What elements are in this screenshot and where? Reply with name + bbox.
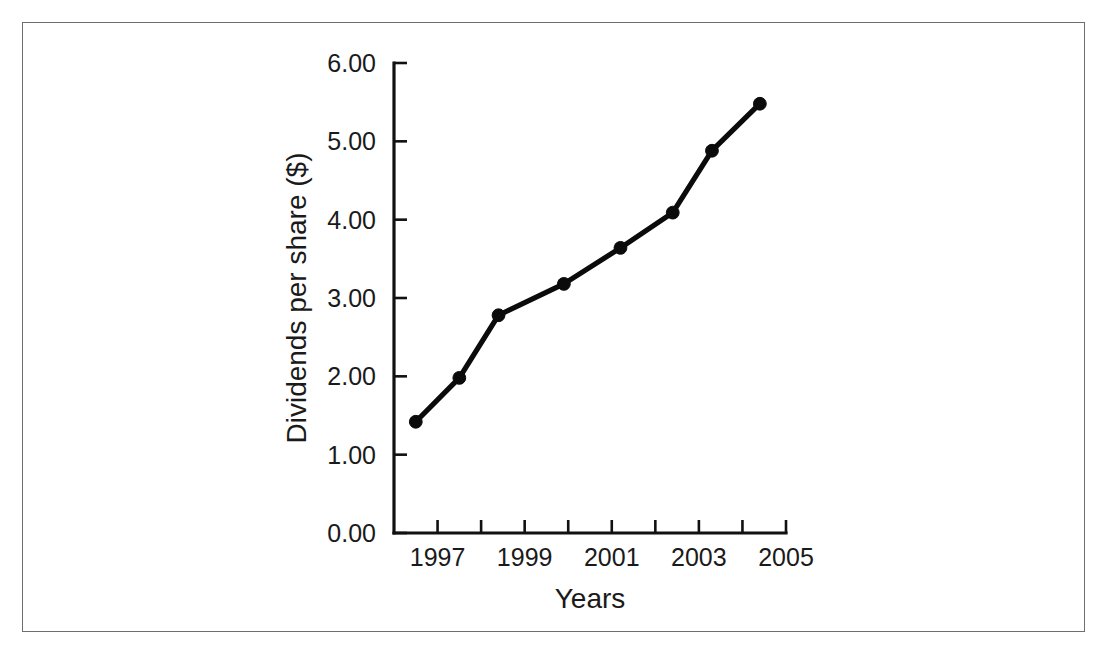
- y-tick-label: 2.00: [327, 362, 376, 390]
- x-axis-title: Years: [555, 583, 626, 614]
- y-axis-tick-labels: 0.001.002.003.004.005.006.00: [327, 49, 376, 547]
- y-tick-label: 6.00: [327, 49, 376, 77]
- chart-canvas: 0.001.002.003.004.005.006.00 19971999200…: [0, 0, 1113, 663]
- y-tick-label: 3.00: [327, 284, 376, 312]
- x-tick-label: 2001: [584, 543, 640, 571]
- line-chart: 0.001.002.003.004.005.006.00 19971999200…: [0, 0, 1113, 663]
- data-point: [492, 309, 505, 322]
- data-point: [666, 206, 679, 219]
- data-point: [453, 372, 466, 385]
- y-axis: 0.001.002.003.004.005.006.00: [327, 49, 407, 547]
- y-tick-label: 0.00: [327, 519, 376, 547]
- x-tick-label: 2003: [671, 543, 727, 571]
- data-point: [614, 241, 627, 254]
- x-axis: 19971999200120032005: [394, 520, 814, 571]
- y-axis-title: Dividends per share ($): [281, 152, 312, 443]
- data-point: [753, 97, 766, 110]
- data-point: [706, 144, 719, 157]
- x-axis-tick-labels: 19971999200120032005: [410, 543, 814, 571]
- y-tick-label: 1.00: [327, 441, 376, 469]
- y-tick-label: 4.00: [327, 206, 376, 234]
- x-tick-label: 2005: [758, 543, 814, 571]
- data-point: [557, 278, 570, 291]
- data-series-dividends: [409, 97, 766, 428]
- data-point: [409, 415, 422, 428]
- figure-page: 0.001.002.003.004.005.006.00 19971999200…: [0, 0, 1113, 663]
- y-axis-ticks: [394, 63, 407, 533]
- series-markers: [409, 97, 766, 428]
- y-tick-label: 5.00: [327, 127, 376, 155]
- x-axis-ticks: [438, 520, 786, 533]
- x-tick-label: 1999: [497, 543, 553, 571]
- x-tick-label: 1997: [410, 543, 466, 571]
